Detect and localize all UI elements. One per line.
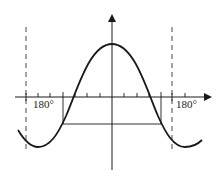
cosine-curve <box>18 44 202 147</box>
x-label-left: 180° <box>33 98 54 110</box>
cosine-diagram: 180° 180° <box>0 0 224 176</box>
y-axis-arrow-icon <box>108 14 116 22</box>
x-label-right: 180° <box>176 98 197 110</box>
x-axis-arrow-icon <box>204 93 212 101</box>
